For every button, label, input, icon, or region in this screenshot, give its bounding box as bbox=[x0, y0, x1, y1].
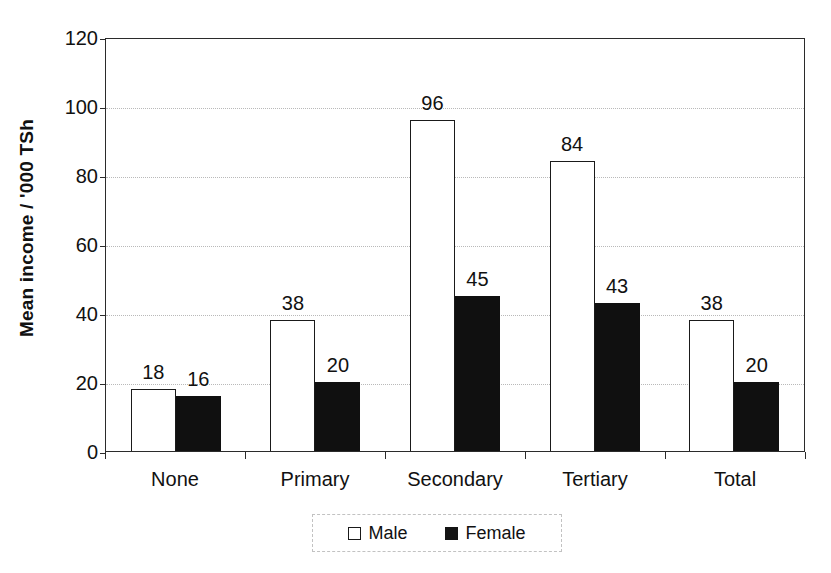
x-axis-tickmark bbox=[385, 452, 386, 459]
bar-female[interactable]: 20 bbox=[315, 382, 360, 451]
y-axis-title: Mean income / '000 TSh bbox=[10, 8, 44, 448]
legend-entry-male[interactable]: Male bbox=[348, 524, 407, 542]
bar-value-label: 38 bbox=[701, 293, 723, 313]
x-axis-tickmark bbox=[665, 452, 666, 459]
bar-male[interactable]: 18 bbox=[131, 389, 176, 451]
y-axis-tick-label: 80 bbox=[52, 166, 98, 186]
bar-groups: 18163820964584433820 bbox=[106, 39, 804, 451]
bar-value-label: 38 bbox=[282, 293, 304, 313]
x-axis-category-label: None bbox=[105, 464, 245, 498]
x-axis-tickmark bbox=[245, 452, 246, 459]
bar-value-label: 16 bbox=[187, 369, 209, 389]
chart-legend: MaleFemale bbox=[312, 514, 562, 552]
y-axis-tick-label: 60 bbox=[52, 235, 98, 255]
bar-value-label: 18 bbox=[142, 362, 164, 382]
plot-area: 18163820964584433820 bbox=[105, 38, 805, 452]
bar-female[interactable]: 43 bbox=[595, 303, 640, 451]
bar-female[interactable]: 45 bbox=[455, 296, 500, 451]
x-axis-category-label: Secondary bbox=[385, 464, 525, 498]
bar-group: 3820 bbox=[246, 39, 386, 451]
bar-group: 3820 bbox=[664, 39, 804, 451]
x-axis-tickmarks bbox=[105, 452, 805, 460]
legend-label: Male bbox=[368, 524, 407, 542]
x-axis-tickmark bbox=[105, 452, 106, 459]
x-axis-tickmark bbox=[805, 452, 806, 459]
bar-value-label: 96 bbox=[421, 93, 443, 113]
x-axis-category-label: Primary bbox=[245, 464, 385, 498]
bar-value-label: 20 bbox=[327, 355, 349, 375]
bar-group: 9645 bbox=[385, 39, 525, 451]
bar-value-label: 43 bbox=[606, 276, 628, 296]
bar-group: 8443 bbox=[525, 39, 665, 451]
y-axis-tick-labels: 020406080100120 bbox=[52, 0, 98, 573]
y-axis-tick-label: 100 bbox=[52, 97, 98, 117]
bar-male[interactable]: 96 bbox=[410, 120, 455, 451]
bar-group: 1816 bbox=[106, 39, 246, 451]
bar-chart-figure: Mean income / '000 TSh 020406080100120 1… bbox=[0, 0, 831, 573]
y-axis-tick-label: 20 bbox=[52, 373, 98, 393]
y-axis-tick-label: 40 bbox=[52, 304, 98, 324]
legend-label: Female bbox=[465, 524, 525, 542]
y-axis-tick-label: 0 bbox=[52, 442, 98, 462]
x-axis-labels: NonePrimarySecondaryTertiaryTotal bbox=[105, 464, 805, 498]
open-square-swatch bbox=[348, 527, 361, 540]
y-axis-tick-label: 120 bbox=[52, 28, 98, 48]
x-axis-category-label: Total bbox=[665, 464, 805, 498]
legend-entry-female[interactable]: Female bbox=[445, 524, 525, 542]
bar-value-label: 45 bbox=[466, 269, 488, 289]
x-axis-category-label: Tertiary bbox=[525, 464, 665, 498]
filled-square-swatch bbox=[445, 527, 458, 540]
bar-male[interactable]: 38 bbox=[689, 320, 734, 451]
bar-male[interactable]: 38 bbox=[270, 320, 315, 451]
bar-male[interactable]: 84 bbox=[550, 161, 595, 451]
bar-female[interactable]: 16 bbox=[176, 396, 221, 451]
bar-value-label: 84 bbox=[561, 134, 583, 154]
bar-value-label: 20 bbox=[746, 355, 768, 375]
bar-female[interactable]: 20 bbox=[734, 382, 779, 451]
x-axis-tickmark bbox=[525, 452, 526, 459]
